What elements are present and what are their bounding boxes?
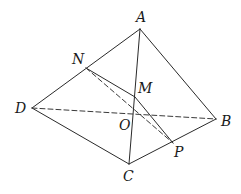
point-label-b: B [220, 113, 231, 129]
edge-ab [140, 29, 216, 119]
point-label-d: D [14, 100, 26, 116]
edge-cb [129, 119, 216, 164]
point-label-n: N [71, 51, 85, 67]
point-label-o: O [119, 117, 131, 133]
edge-nm [86, 68, 135, 97]
point-label-m: M [137, 80, 153, 96]
point-label-a: A [134, 9, 146, 25]
edge-mp [135, 97, 173, 143]
edge-dc [32, 108, 129, 164]
labels-group: ANMDOBPC [14, 9, 231, 184]
point-label-c: C [123, 168, 134, 184]
point-label-p: P [173, 144, 184, 160]
edges-group [32, 29, 216, 164]
geometry-diagram: ANMDOBPC [0, 0, 241, 194]
